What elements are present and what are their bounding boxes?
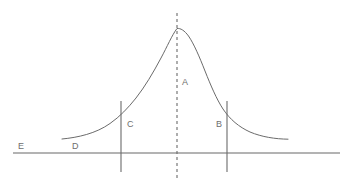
bell-curve-diagram: A B C D E [0, 0, 352, 182]
diagram-canvas [0, 0, 352, 182]
label-d: D [72, 141, 79, 151]
label-a: A [182, 77, 188, 87]
label-c: C [127, 119, 134, 129]
label-e: E [18, 141, 24, 151]
bell-curve-path [62, 28, 288, 139]
label-b: B [216, 119, 222, 129]
